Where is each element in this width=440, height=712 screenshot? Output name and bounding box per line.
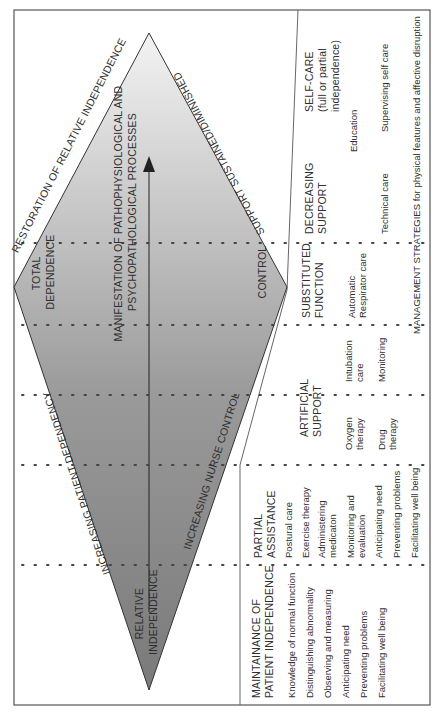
column-partial-assistance: PARTIALASSISTANCE Postural care Exercise… [252,468,420,558]
svg-text:SUBSTITUTEDFUNCTION: SUBSTITUTEDFUNCTION [300,243,325,318]
svg-text:Oxygentherapy: Oxygentherapy [343,417,365,450]
svg-text:Distinguishing abnormality: Distinguishing abnormality [304,587,315,698]
svg-text:Exercise therapy: Exercise therapy [300,487,311,558]
label-control: CONTROL [256,246,268,299]
svg-text:Monitoring: Monitoring [376,338,387,382]
svg-text:Technical care: Technical care [379,173,390,234]
svg-text:Postural care: Postural care [283,502,294,558]
svg-text:Education: Education [348,110,359,152]
svg-text:MAINTAINANCE OFPATIENT INDEPEN: MAINTAINANCE OFPATIENT INDEPENDENCE [250,565,275,698]
column-maintenance: MAINTAINANCE OFPATIENT INDEPENDENCE Know… [250,565,387,698]
column-decreasing-support: DECREASINGSUPPORT Education Technical ca… [303,110,390,234]
diagram-canvas: RELATIVE INDEPENDENCE TOTAL DEPENDENCE M… [0,0,440,712]
svg-text:Administeringmedicaton: Administeringmedicaton [316,500,338,558]
svg-text:Supervising self care: Supervising self care [379,44,390,132]
management-strategies-label: MANAGEMENT STRATEGIES for physical featu… [411,16,422,334]
svg-text:DECREASINGSUPPORT: DECREASINGSUPPORT [303,163,328,234]
svg-text:ARTIFICIALSUPPORT: ARTIFICIALSUPPORT [298,379,323,437]
svg-text:Anticipating need: Anticipating need [373,485,384,558]
svg-text:Anticipating need: Anticipating need [340,625,351,698]
nursing-dependency-diagram: RELATIVE INDEPENDENCE TOTAL DEPENDENCE M… [0,0,440,712]
svg-text:Facilitating well being: Facilitating well being [409,468,420,558]
svg-text:Observing and measuring: Observing and measuring [322,589,333,698]
column-artificial-support: ARTIFICIALSUPPORT Oxygentherapy Drugther… [298,338,398,450]
svg-text:Preventing problems: Preventing problems [391,471,402,558]
svg-text:Preventing problems: Preventing problems [358,611,369,698]
svg-text:Facilitating well being: Facilitating well being [376,608,387,698]
svg-text:Monitoring andevaluation: Monitoring andevaluation [345,495,367,558]
svg-text:PARTIALASSISTANCE: PARTIALASSISTANCE [252,490,277,558]
svg-text:Intubationcare: Intubationcare [343,340,365,382]
column-substituted-function: SUBSTITUTEDFUNCTION AutomaticRespirator … [300,243,368,318]
svg-text:Drugtherapy: Drugtherapy [376,418,398,450]
svg-text:AutomaticRespirator care: AutomaticRespirator care [346,253,368,318]
svg-text:Knowledge of normal function: Knowledge of normal function [286,573,297,698]
svg-text:SELF-CARE(full or partialindep: SELF-CARE(full or partialindependence) [303,40,341,112]
column-self-care: SELF-CARE(full or partialindependence) S… [303,40,390,132]
